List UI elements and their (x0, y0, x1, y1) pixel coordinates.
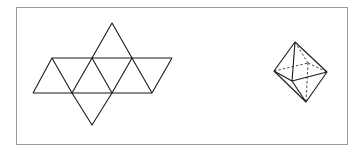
net-top-triangle (92, 23, 132, 58)
net-bottom-triangle (72, 93, 112, 125)
octahedron-net (33, 23, 172, 125)
octahedron-solid (274, 42, 327, 102)
figure-frame (17, 8, 348, 145)
net-zigzag (33, 58, 172, 93)
figure-canvas (0, 0, 364, 149)
